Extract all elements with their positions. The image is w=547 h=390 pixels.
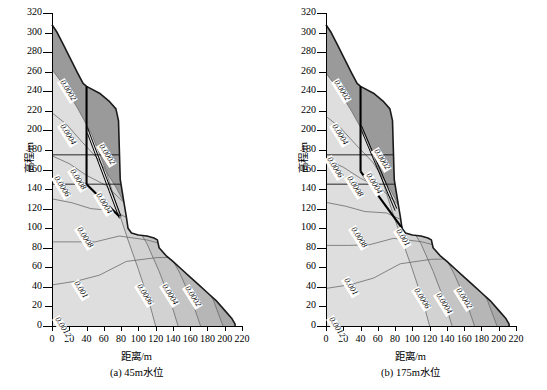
x-tick	[190, 326, 191, 331]
x-tick	[207, 326, 208, 331]
x-tick	[225, 326, 226, 331]
y-tick	[45, 228, 52, 229]
y-tick	[43, 248, 52, 249]
y-tick-label-wrap: 60	[286, 261, 316, 273]
y-tick-label: 60	[290, 261, 316, 271]
panel-a-y-axis-line	[52, 13, 53, 326]
y-tick	[43, 91, 52, 92]
y-tick	[45, 33, 52, 34]
panel-a-y-axis-title: 高程/m	[21, 128, 36, 188]
y-tick	[317, 52, 326, 53]
y-tick	[317, 248, 326, 249]
y-tick-label: 100	[290, 222, 316, 232]
y-tick	[319, 306, 326, 307]
x-tick	[412, 326, 413, 331]
x-tick	[395, 326, 396, 331]
y-tick	[319, 33, 326, 34]
y-tick-label: 280	[290, 46, 316, 56]
y-tick	[43, 13, 52, 14]
y-tick	[319, 111, 326, 112]
y-tick-label: 20	[290, 300, 316, 310]
y-tick-label: 100	[16, 222, 42, 232]
y-tick-label: 120	[290, 203, 316, 213]
y-tick	[45, 306, 52, 307]
x-tick	[481, 326, 482, 331]
y-tick-label-wrap: 0	[12, 320, 42, 332]
x-tick	[242, 326, 243, 331]
y-tick-label: 320	[16, 7, 42, 17]
y-tick-label-wrap: 280	[286, 46, 316, 58]
y-tick-label-wrap: 240	[286, 85, 316, 97]
x-tick	[156, 326, 157, 331]
x-tick	[138, 326, 139, 331]
y-tick-label: 260	[16, 66, 42, 76]
y-tick-label-wrap: 260	[12, 66, 42, 78]
y-tick	[45, 72, 52, 73]
x-tick	[499, 326, 500, 331]
y-tick-label-wrap: 100	[12, 222, 42, 234]
y-tick-label: 240	[16, 85, 42, 95]
y-tick	[319, 228, 326, 229]
y-tick	[45, 150, 52, 151]
y-tick-label: 220	[16, 105, 42, 115]
y-tick	[317, 209, 326, 210]
y-tick-label: 300	[16, 27, 42, 37]
y-tick	[317, 130, 326, 131]
y-tick-label: 80	[290, 242, 316, 252]
x-tick	[361, 326, 362, 331]
y-tick-label-wrap: 300	[12, 27, 42, 39]
panel-b-caption: (b) 175m水位	[274, 364, 547, 379]
y-tick-label-wrap: 60	[12, 261, 42, 273]
x-tick	[104, 326, 105, 331]
y-tick-label-wrap: 80	[286, 242, 316, 254]
y-tick	[317, 326, 326, 327]
y-tick-label: 260	[290, 66, 316, 76]
y-tick	[45, 189, 52, 190]
x-tick-label: 220	[503, 333, 529, 344]
y-tick	[43, 287, 52, 288]
y-tick-label: 120	[16, 203, 42, 213]
y-tick	[317, 287, 326, 288]
y-tick-label-wrap: 220	[12, 105, 42, 117]
y-tick-label-wrap: 120	[286, 203, 316, 215]
y-tick-label-wrap: 100	[286, 222, 316, 234]
y-tick-label-wrap: 120	[12, 203, 42, 215]
y-tick-label-wrap: 280	[12, 46, 42, 58]
panel-b: 0204060801001201401601802002202402602803…	[274, 0, 547, 390]
y-tick-label-wrap: 300	[286, 27, 316, 39]
y-tick	[43, 130, 52, 131]
x-tick	[326, 326, 327, 331]
y-tick-label-wrap: 0	[286, 320, 316, 332]
y-tick-label: 240	[290, 85, 316, 95]
y-tick-label: 80	[16, 242, 42, 252]
panel-a: 0204060801001201401601802002202402602803…	[0, 0, 273, 390]
y-tick-label-wrap: 20	[12, 300, 42, 312]
y-tick-label-wrap: 40	[12, 281, 42, 293]
x-tick	[121, 326, 122, 331]
y-tick	[43, 170, 52, 171]
y-tick-label-wrap: 40	[286, 281, 316, 293]
y-tick	[45, 267, 52, 268]
y-tick	[319, 72, 326, 73]
x-tick	[464, 326, 465, 331]
y-tick	[43, 326, 52, 327]
y-tick-label: 280	[16, 46, 42, 56]
panel-a-x-axis-title: 距离/m	[0, 348, 273, 363]
y-tick-label-wrap: 320	[12, 7, 42, 19]
y-tick-label: 40	[16, 281, 42, 291]
y-tick	[45, 111, 52, 112]
panel-a-x-axis-line	[52, 326, 243, 327]
x-tick	[87, 326, 88, 331]
y-tick-label: 0	[290, 320, 316, 330]
y-tick-label: 320	[290, 7, 316, 17]
y-tick-label: 300	[290, 27, 316, 37]
y-tick-label: 20	[16, 300, 42, 310]
y-tick	[319, 150, 326, 151]
y-tick	[43, 52, 52, 53]
y-tick-label: 0	[16, 320, 42, 330]
y-tick	[317, 91, 326, 92]
panel-b-y-axis-line	[326, 13, 327, 326]
panel-b-x-axis-line	[326, 326, 517, 327]
y-tick	[319, 267, 326, 268]
x-tick	[430, 326, 431, 331]
